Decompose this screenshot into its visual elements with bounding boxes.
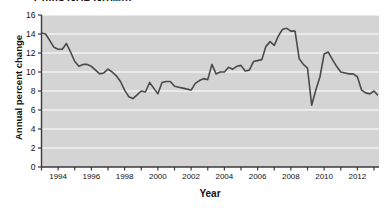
x-tick-label: 1996	[76, 172, 106, 181]
x-tick-label: 2004	[209, 172, 239, 181]
x-tick-label: 2000	[143, 172, 173, 181]
chart-figure: China GDP Growth Annual percent change Y…	[0, 0, 391, 208]
x-tick-labels: 1994199619982000200220042006200820102012	[0, 0, 391, 208]
x-tick-label: 2008	[276, 172, 306, 181]
x-tick-label: 1998	[110, 172, 140, 181]
x-tick-label: 2010	[309, 172, 339, 181]
x-tick-label: 1994	[43, 172, 73, 181]
x-tick-label: 2002	[176, 172, 206, 181]
x-tick-label: 2006	[243, 172, 273, 181]
x-tick-label: 2012	[342, 172, 372, 181]
